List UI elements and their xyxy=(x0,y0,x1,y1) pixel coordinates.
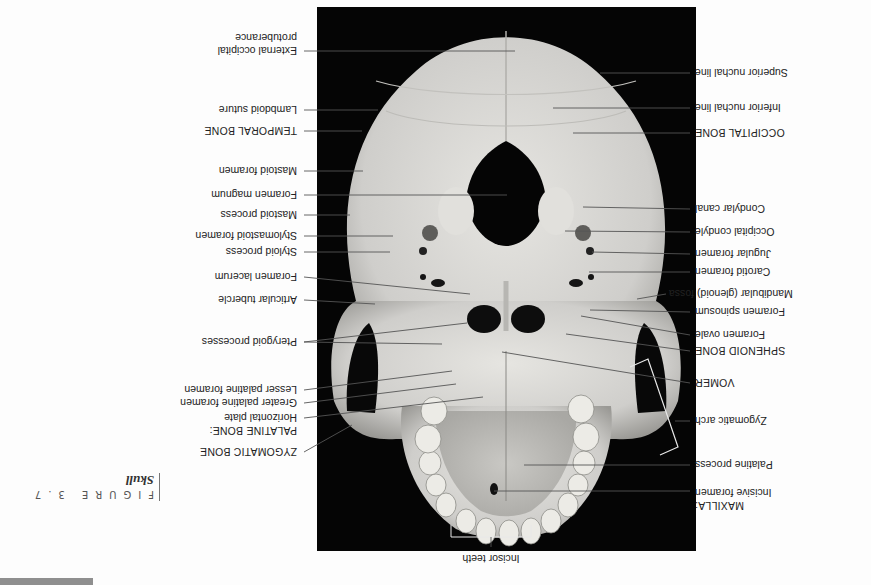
figure-number: FIGURE 3.7 xyxy=(28,487,160,501)
label-carotid-foramen: Carotid foramen xyxy=(695,266,770,278)
label-condylar-canal: Condylar canal xyxy=(695,203,765,215)
label-foramen-ovale: Foramen ovale xyxy=(695,329,765,341)
figure-stage: MAXILLA: Incisive foramen Palatine proce… xyxy=(0,0,871,585)
label-foramen-spinosum: Foramen spinosum xyxy=(695,306,785,318)
label-incisive-foramen: Incisive foramen xyxy=(695,487,771,499)
label-mastoid-foramen: Mastoid foramen xyxy=(219,165,297,177)
label-temporal-bone: TEMPORAL BONE xyxy=(204,125,297,137)
label-foramen-lacerum: Foramen lacerum xyxy=(215,271,297,283)
label-mastoid-process: Mastoid process xyxy=(221,209,297,221)
label-external-occipital-protuberance: External occipital xyxy=(218,45,297,57)
figure-title: Skull xyxy=(28,473,160,487)
label-pterygoid-processes: Pterygoid processes xyxy=(202,336,297,348)
label-greater-palatine-foramen: Greater palatine foramen xyxy=(180,397,297,409)
label-zygomatic-bone: ZYGOMATIC BONE xyxy=(200,446,297,458)
label-styloid-process: Styloid process xyxy=(226,246,297,258)
skull-photo xyxy=(317,7,696,551)
label-incisor-teeth: Incisor teeth xyxy=(456,553,526,565)
label-lesser-palatine-foramen: Lesser palatine foramen xyxy=(184,384,297,396)
label-articular-tubercle: Articular tubercle xyxy=(218,294,297,306)
label-superior-nuchal-line: Superior nuchal line xyxy=(695,67,788,79)
label-horizontal-plate: Horizontal plate xyxy=(224,412,297,424)
label-mandibular-fossa: Mandibular (glenoid) fossa xyxy=(669,288,793,300)
label-external-occipital-protuberance-line2: protuberance xyxy=(235,32,297,44)
label-zygomatic-arch: Zygomatic arch xyxy=(695,415,767,427)
label-palatine-bone: PALATINE BONE: xyxy=(209,425,297,437)
label-stylomastoid-foramen: Stylomastoid foramen xyxy=(195,230,297,242)
label-sphenoid-bone: SPHENOID BONE xyxy=(695,345,785,357)
label-maxilla: MAXILLA: xyxy=(695,500,744,512)
label-occipital-bone: OCCIPITAL BONE xyxy=(695,127,785,139)
skull-illustration xyxy=(317,7,696,551)
label-occipital-condyle: Occipital condyle xyxy=(695,226,774,238)
label-jugular-foramen: Jugular foramen xyxy=(695,248,771,260)
label-lambdoid-suture: Lambdoid suture xyxy=(219,104,297,116)
label-foramen-magnum: Foramen magnum xyxy=(211,189,297,201)
figure-caption: FIGURE 3.7 Skull xyxy=(28,473,160,501)
decorative-gray-bar xyxy=(0,578,93,585)
label-inferior-nuchal-line: Inferior nuchal line xyxy=(695,102,781,114)
label-palatine-process: Palatine process xyxy=(695,459,773,471)
label-vomer: VOMER xyxy=(695,377,735,389)
